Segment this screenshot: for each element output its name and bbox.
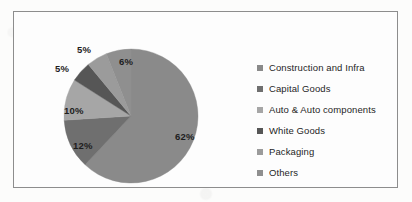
pie-slice-label: 6%: [119, 56, 133, 67]
legend-item-label: Capital Goods: [269, 83, 331, 94]
legend-item: Construction and Infra: [257, 57, 407, 78]
legend-swatch-icon: [257, 65, 263, 71]
legend-item-label: Others: [269, 167, 298, 178]
pie-chart-svg: [63, 48, 199, 184]
legend-item-label: Auto & Auto components: [269, 104, 376, 115]
legend-swatch-icon: [257, 86, 263, 92]
legend-item: Others: [257, 162, 407, 183]
pie-slice-label: 5%: [77, 44, 91, 55]
pie-slice-label: 10%: [64, 105, 84, 116]
legend-item: Packaging: [257, 141, 407, 162]
legend-item: Capital Goods: [257, 78, 407, 99]
legend-item-label: Construction and Infra: [269, 62, 365, 73]
legend-swatch-icon: [257, 170, 263, 176]
legend-item-label: White Goods: [269, 125, 325, 136]
legend-item: Auto & Auto components: [257, 99, 407, 120]
legend-item: White Goods: [257, 120, 407, 141]
legend-item-label: Packaging: [269, 146, 314, 157]
pie-slice-group: [64, 49, 198, 183]
chart-frame: 62%12%10%5%5%6% Construction and InfraCa…: [13, 11, 398, 188]
legend-swatch-icon: [257, 128, 263, 134]
pie-slice-label: 62%: [175, 131, 195, 142]
pie-slice-label: 5%: [55, 63, 69, 74]
pie-chart: 62%12%10%5%5%6%: [63, 48, 199, 184]
chart-legend: Construction and InfraCapital GoodsAuto …: [257, 57, 407, 183]
legend-swatch-icon: [257, 149, 263, 155]
legend-swatch-icon: [257, 107, 263, 113]
pie-slice-label: 12%: [73, 140, 93, 151]
